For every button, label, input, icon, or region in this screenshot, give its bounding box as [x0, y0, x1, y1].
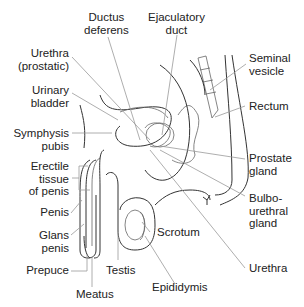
label-seminal-vesicle: Seminal vesicle — [249, 52, 291, 77]
label-symphysis-pubis: Symphysis pubis — [13, 127, 69, 152]
label-glans-penis: Glans penis — [39, 229, 69, 254]
label-urethra: Urethra — [249, 262, 287, 275]
label-bulbourethral-gland: Bulbo- urethral gland — [249, 192, 288, 230]
leader-lines — [71, 35, 246, 287]
label-urinary-bladder: Urinary bladder — [31, 84, 69, 109]
label-ductus-deferens: Ductus deferens — [84, 11, 129, 36]
label-meatus: Meatus — [76, 288, 114, 301]
label-penis: Penis — [40, 206, 69, 219]
label-prepuce: Prepuce — [26, 264, 69, 277]
label-epididymis: Epididymis — [152, 281, 208, 294]
label-ejaculatory-duct: Ejaculatory duct — [148, 11, 205, 36]
label-testis: Testis — [106, 264, 135, 277]
label-scrotum: Scrotum — [157, 226, 200, 239]
label-rectum: Rectum — [249, 100, 289, 113]
label-prostate-gland: Prostate gland — [249, 152, 292, 177]
label-urethra-prostatic: Urethra (prostatic) — [18, 47, 69, 72]
label-erectile-tissue: Erectile tissue of penis — [29, 160, 69, 198]
